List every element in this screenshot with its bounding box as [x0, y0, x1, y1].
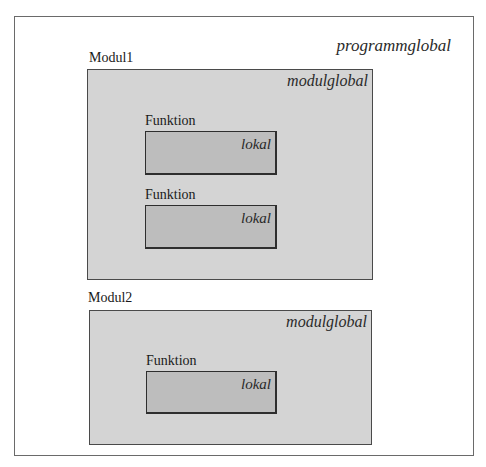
module2-scope-label: modulglobal — [286, 313, 367, 331]
module1-scope-label: modulglobal — [287, 72, 368, 90]
program-scope-label: programmglobal — [336, 36, 451, 56]
module2-function1-label: Funktion — [146, 353, 197, 369]
module1-function2-scope-box: lokal — [145, 205, 277, 249]
module1-label: Modul1 — [89, 50, 133, 66]
module1-function1-label: Funktion — [145, 113, 196, 129]
module2-function1-scope-box: lokal — [146, 371, 277, 414]
module1-function2-scope-label: lokal — [241, 210, 271, 227]
module1-function1-scope-label: lokal — [241, 136, 271, 153]
module2-function1-scope-label: lokal — [241, 376, 271, 393]
module2-label: Modul2 — [88, 290, 132, 306]
module1-function1-scope-box: lokal — [145, 131, 277, 175]
module1-function2-label: Funktion — [145, 187, 196, 203]
